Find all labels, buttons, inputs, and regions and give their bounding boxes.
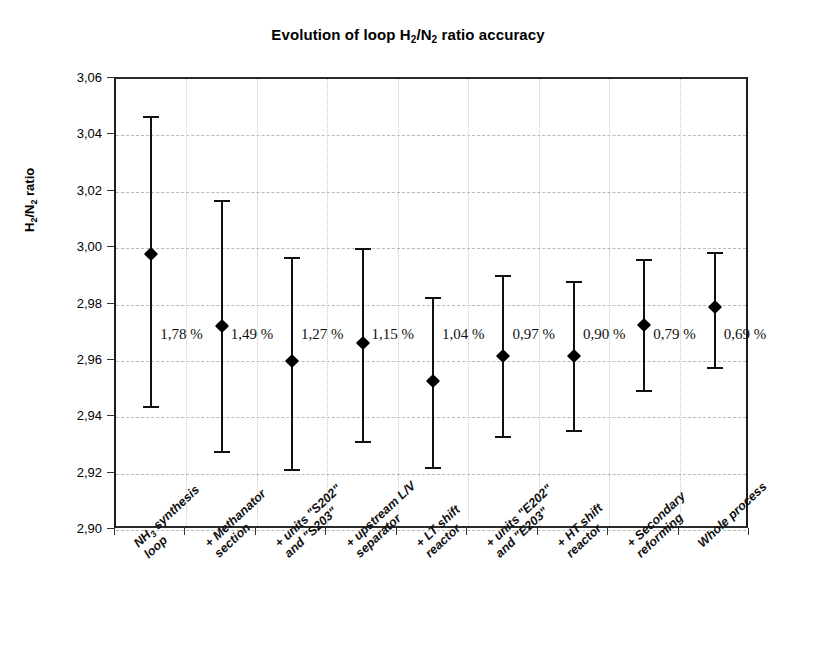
y-axis-tick-label: 2,94: [48, 408, 102, 423]
plot-area: 1,78 %1,49 %1,27 %1,15 %1,04 %0,97 %0,90…: [114, 77, 748, 528]
x-axis-tick-mark: [255, 528, 256, 535]
y-axis-tick-label: 2,96: [48, 351, 102, 366]
x-axis-tick-mark: [537, 528, 538, 535]
data-point-marker[interactable]: [637, 318, 651, 332]
accuracy-label: 1,49 %: [231, 326, 274, 343]
category-divider: [680, 79, 681, 526]
y-axis-tick-mark: [107, 528, 114, 529]
y-axis-label-post: ratio: [22, 168, 37, 200]
y-axis-tick-mark: [107, 303, 114, 304]
y-axis-tick-label: 2,92: [48, 464, 102, 479]
chart-title: Evolution of loop H2/N2 ratio accuracy: [0, 26, 816, 43]
error-bar-cap-top: [707, 252, 723, 254]
accuracy-label: 1,04 %: [442, 326, 485, 343]
data-point-marker[interactable]: [285, 354, 299, 368]
error-bar-cap-bottom: [143, 406, 159, 408]
chart-figure: Evolution of loop H2/N2 ratio accuracy H…: [0, 0, 816, 659]
y-axis-label-sub-1: 2: [29, 218, 39, 223]
x-axis-tick-mark: [114, 528, 115, 535]
y-axis-tick-label: 3,02: [48, 182, 102, 197]
y-axis-label-pre: H: [22, 223, 37, 232]
x-axis-tick-mark: [607, 528, 608, 535]
category-divider: [609, 79, 610, 526]
gridline: [116, 417, 746, 418]
gridline: [116, 361, 746, 362]
gridline: [116, 135, 746, 136]
chart-title-post: ratio accuracy: [437, 26, 544, 43]
error-bar-cap-bottom: [214, 451, 230, 453]
chart-title-pre: Evolution of loop H: [271, 26, 410, 43]
data-point-marker[interactable]: [708, 300, 722, 314]
y-axis-tick-mark: [107, 415, 114, 416]
error-bar-cap-top: [214, 200, 230, 202]
accuracy-label: 1,27 %: [301, 326, 344, 343]
y-axis-label-sub-2: 2: [29, 200, 39, 205]
error-bar-cap-bottom: [284, 469, 300, 471]
chart-title-mid: /N: [416, 26, 431, 43]
y-axis-tick-mark: [107, 472, 114, 473]
error-bar-cap-bottom: [425, 467, 441, 469]
y-axis-tick-label: 3,00: [48, 239, 102, 254]
gridline: [116, 305, 746, 306]
data-point-marker[interactable]: [215, 319, 229, 333]
category-divider: [539, 79, 540, 526]
accuracy-label: 0,90 %: [583, 326, 626, 343]
x-axis-tick-mark: [396, 528, 397, 535]
gridline: [116, 192, 746, 193]
error-bar-cap-bottom: [495, 436, 511, 438]
category-divider: [257, 79, 258, 526]
category-divider: [186, 79, 187, 526]
y-axis-tick-mark: [107, 190, 114, 191]
accuracy-label: 1,78 %: [160, 326, 203, 343]
error-bar-cap-top: [425, 297, 441, 299]
y-axis-tick-mark: [107, 77, 114, 78]
x-axis-tick-mark: [748, 528, 749, 535]
y-axis-tick-label: 2,90: [48, 521, 102, 536]
category-divider: [468, 79, 469, 526]
error-bar-cap-bottom: [707, 367, 723, 369]
accuracy-label: 0,97 %: [512, 326, 555, 343]
y-axis-label: H2/N2 ratio: [22, 72, 37, 232]
chart-title-sub-2: 2: [432, 34, 438, 45]
y-axis-label-mid: /N: [22, 205, 37, 218]
accuracy-label: 0,79 %: [653, 326, 696, 343]
data-point-marker[interactable]: [355, 335, 369, 349]
error-bar-cap-top: [495, 275, 511, 277]
error-bar-cap-top: [284, 257, 300, 259]
error-bar-cap-top: [566, 281, 582, 283]
error-bar-cap-bottom: [566, 430, 582, 432]
category-divider: [398, 79, 399, 526]
error-bar-cap-top: [636, 259, 652, 261]
x-axis-tick-mark: [325, 528, 326, 535]
chart-title-sub-1: 2: [411, 34, 417, 45]
y-axis-tick-mark: [107, 359, 114, 360]
x-axis-tick-mark: [678, 528, 679, 535]
error-bar-cap-bottom: [636, 390, 652, 392]
data-point-marker[interactable]: [426, 374, 440, 388]
x-axis-tick-mark: [466, 528, 467, 535]
accuracy-label: 1,15 %: [372, 326, 415, 343]
y-axis-tick-label: 3,04: [48, 126, 102, 141]
gridline: [116, 248, 746, 249]
gridline: [116, 474, 746, 475]
category-divider: [327, 79, 328, 526]
y-axis-tick-mark: [107, 246, 114, 247]
y-axis-tick-label: 2,98: [48, 295, 102, 310]
error-bar-cap-bottom: [355, 441, 371, 443]
error-bar-cap-top: [143, 116, 159, 118]
y-axis-tick-mark: [107, 133, 114, 134]
error-bar-cap-top: [355, 248, 371, 250]
accuracy-label: 0,69 %: [724, 326, 767, 343]
y-axis-tick-label: 3,06: [48, 70, 102, 85]
